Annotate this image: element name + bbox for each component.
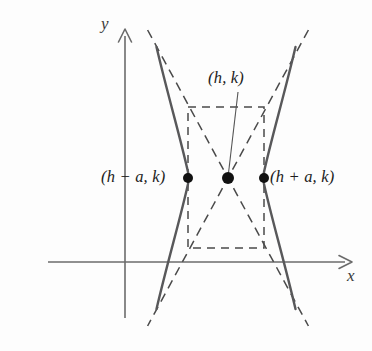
right-vertex-point — [259, 173, 269, 183]
center-label-leader-line — [229, 92, 239, 173]
hyperbola-figure: (h, k) (h − a, k) (h + a, k) y x — [0, 0, 372, 351]
left-vertex-label: (h − a, k) — [101, 167, 165, 187]
center-point-label: (h, k) — [208, 68, 244, 88]
right-vertex-label: (h + a, k) — [270, 167, 334, 187]
left-vertex-point — [183, 173, 193, 183]
x-axis-label: x — [347, 266, 355, 286]
center-point — [222, 172, 234, 184]
point-markers — [183, 172, 269, 184]
y-axis-label: y — [101, 14, 109, 34]
